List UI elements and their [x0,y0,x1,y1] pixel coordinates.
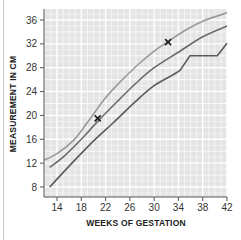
x-tick-label: 30 [149,202,161,213]
y-tick-label: 28 [26,62,38,73]
y-tick-label: 12 [26,158,38,169]
x-tick-label: 42 [221,202,233,213]
y-axis-title: MEASUREMENT IN CM [8,56,18,152]
x-tick-label: 14 [51,202,63,213]
x-tick-label: 26 [124,202,136,213]
x-axis-title: WEEKS OF GESTATION [86,218,186,228]
growth-chart: 8121620242832361418222630343842 WEEKS OF… [0,0,241,240]
plot-background [44,9,227,197]
y-tick-label: 16 [26,134,38,145]
y-tick-label: 20 [26,110,38,121]
x-tick-label: 38 [197,202,209,213]
x-tick-label: 22 [100,202,112,213]
y-tick-label: 32 [26,38,38,49]
y-tick-label: 24 [26,86,38,97]
plot-area [44,9,227,197]
x-tick-label: 18 [76,202,88,213]
x-tick-label: 34 [173,202,185,213]
y-tick-label: 8 [31,182,37,193]
y-tick-label: 36 [26,15,38,26]
